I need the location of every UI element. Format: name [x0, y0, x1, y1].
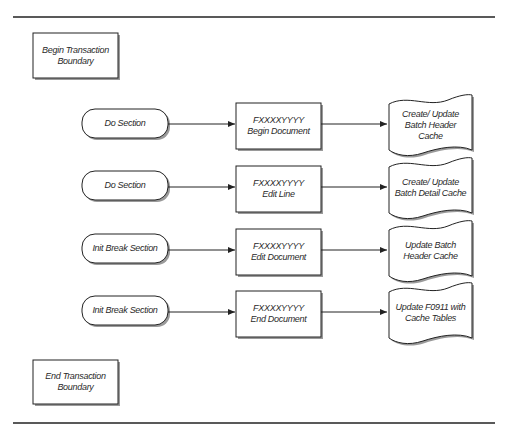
output-label: Update F0911 with Cache Tables — [389, 287, 472, 339]
output-label: Create/ Update Batch Header Cache — [389, 99, 472, 151]
function-label: FXXXXYYYY Edit Document — [236, 229, 321, 275]
section-label: Init Break Section — [82, 296, 168, 325]
output-label: Update Batch Header Cache — [389, 225, 472, 277]
begin-transaction-label: Begin Transaction Boundary — [33, 33, 118, 78]
function-label: FXXXXYYYY Edit Line — [236, 166, 321, 212]
section-label: Do Section — [82, 171, 168, 200]
end-transaction-label: End Transaction Boundary — [33, 360, 118, 404]
output-label: Create/ Update Batch Detail Cache — [389, 162, 472, 214]
function-label: FXXXXYYYY Begin Document — [236, 103, 321, 149]
function-label: FXXXXYYYY End Document — [236, 291, 321, 337]
section-label: Init Break Section — [82, 234, 168, 263]
section-label: Do Section — [82, 109, 168, 138]
